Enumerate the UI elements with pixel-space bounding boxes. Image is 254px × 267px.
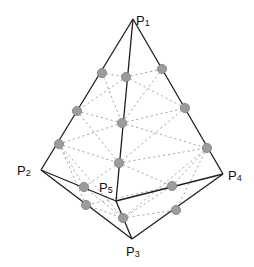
dotted-mesh-lines — [59, 69, 207, 218]
mesh-node — [114, 158, 123, 167]
edge-p1-p2 — [41, 19, 133, 170]
dotted-mesh-line — [59, 144, 86, 205]
edge-p1-p5 — [116, 19, 133, 201]
dotted-mesh-line — [77, 77, 126, 111]
vertex-label-subscript: 3 — [135, 249, 140, 259]
vertex-label-subscript: 4 — [237, 173, 242, 183]
dotted-mesh-line — [102, 73, 122, 123]
dotted-mesh-line — [122, 123, 207, 148]
mesh-node — [202, 143, 211, 152]
mesh-node — [167, 181, 176, 190]
vertex-label-p2: P2 — [17, 163, 31, 178]
mesh-node — [117, 118, 126, 127]
vertex-label-p3: P3 — [126, 244, 140, 259]
mesh-node — [157, 64, 166, 73]
vertex-labels: P1P2P3P4P5 — [17, 13, 242, 259]
mesh-node — [97, 68, 106, 77]
dotted-mesh-line — [59, 144, 84, 187]
mesh-node — [118, 213, 127, 222]
diagram-svg: P1P2P3P4P5 — [0, 0, 254, 267]
mesh-node — [121, 72, 130, 81]
polyhedron-diagram: P1P2P3P4P5 — [0, 0, 254, 267]
dotted-mesh-line — [86, 205, 123, 218]
dotted-mesh-line — [126, 69, 162, 77]
dotted-mesh-line — [59, 144, 119, 163]
solid-edges — [41, 19, 223, 239]
mesh-node — [79, 182, 88, 191]
dotted-mesh-line — [172, 148, 207, 186]
mesh-node — [72, 106, 81, 115]
vertex-label-subscript: 2 — [26, 168, 31, 178]
dotted-mesh-line — [119, 163, 172, 186]
vertex-label-subscript: 1 — [145, 18, 150, 28]
mesh-node — [81, 200, 90, 209]
vertex-label-p5: P5 — [99, 180, 113, 195]
mesh-node — [180, 103, 189, 112]
dotted-mesh-line — [119, 148, 207, 163]
dotted-mesh-line — [77, 111, 122, 123]
dotted-mesh-line — [77, 111, 119, 163]
vertex-label-p4: P4 — [228, 168, 242, 183]
dotted-mesh-line — [123, 148, 207, 218]
mesh-node — [54, 139, 63, 148]
vertex-label-p1: P1 — [136, 13, 150, 28]
mesh-node — [171, 205, 180, 214]
dotted-mesh-line — [123, 186, 172, 218]
vertex-label-subscript: 5 — [108, 185, 113, 195]
